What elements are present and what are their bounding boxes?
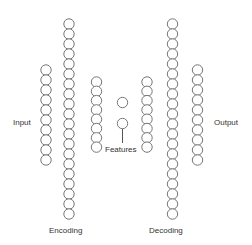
neuron-node (64, 59, 74, 69)
neuron-node (41, 105, 51, 115)
layer-encoder-hidden (91, 77, 101, 153)
neuron-node (41, 135, 51, 145)
neuron-node (167, 199, 177, 209)
neuron-node (167, 189, 177, 199)
neuron-node (167, 159, 177, 169)
neuron-node (167, 19, 177, 29)
neuron-node (192, 105, 202, 115)
neuron-node (64, 99, 74, 109)
layer-output (192, 65, 202, 165)
neuron-node (64, 79, 74, 89)
network-layers (41, 19, 203, 219)
neuron-node (192, 95, 202, 105)
encoding-label: Encoding (49, 226, 82, 235)
layer-decoder-hidden (142, 77, 152, 153)
neuron-node (167, 49, 177, 59)
layer-encoding (64, 19, 74, 219)
neuron-node (167, 169, 177, 179)
neuron-node (41, 115, 51, 125)
neuron-node (41, 85, 51, 95)
neuron-node (192, 115, 202, 125)
neuron-node (64, 39, 74, 49)
neuron-node (64, 159, 74, 169)
neuron-node (192, 85, 202, 95)
neuron-node (167, 109, 177, 119)
neuron-node (192, 125, 202, 135)
neuron-node (167, 39, 177, 49)
neuron-node (64, 19, 74, 29)
neuron-node (167, 59, 177, 69)
neuron-node (192, 75, 202, 85)
layer-input (41, 65, 51, 165)
neuron-node (142, 142, 152, 152)
neuron-node (192, 155, 202, 165)
neuron-node (64, 149, 74, 159)
neuron-node (64, 199, 74, 209)
neuron-node (64, 109, 74, 119)
neuron-node (41, 145, 51, 155)
neuron-node (64, 89, 74, 99)
neuron-node (41, 125, 51, 135)
neuron-node (64, 139, 74, 149)
layer-features (117, 97, 127, 128)
neuron-node (192, 135, 202, 145)
neuron-node (64, 189, 74, 199)
neuron-node (167, 129, 177, 139)
decoding-label: Decoding (149, 226, 183, 235)
neuron-node (167, 79, 177, 89)
neuron-node (167, 139, 177, 149)
neuron-node (64, 69, 74, 79)
neuron-node (192, 65, 202, 75)
layer-decoding (167, 19, 177, 219)
neuron-node (41, 75, 51, 85)
neuron-node (64, 209, 74, 219)
neuron-node (117, 118, 127, 128)
neuron-node (64, 29, 74, 39)
neuron-node (167, 89, 177, 99)
features-label: Features (105, 145, 137, 154)
output-label: Output (214, 118, 238, 127)
neuron-node (167, 179, 177, 189)
neuron-node (64, 179, 74, 189)
neuron-node (64, 49, 74, 59)
neuron-node (167, 69, 177, 79)
neuron-node (64, 129, 74, 139)
neuron-node (64, 169, 74, 179)
neuron-node (41, 155, 51, 165)
neuron-node (167, 29, 177, 39)
neuron-node (192, 145, 202, 155)
neuron-node (167, 209, 177, 219)
neuron-node (41, 65, 51, 75)
neuron-node (91, 142, 101, 152)
neuron-node (167, 149, 177, 159)
input-label: Input (13, 118, 31, 127)
neuron-node (167, 119, 177, 129)
neuron-node (117, 97, 127, 107)
neuron-node (41, 95, 51, 105)
neuron-node (64, 119, 74, 129)
neuron-node (167, 99, 177, 109)
